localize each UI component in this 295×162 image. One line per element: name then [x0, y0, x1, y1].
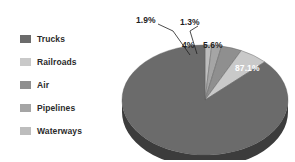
legend-label-air: Air — [37, 80, 49, 90]
legend-swatch-pipelines — [20, 104, 31, 112]
slice-label-waterways: 1.3% — [180, 17, 200, 27]
legend-item-railroads: Railroads — [20, 56, 125, 68]
legend-swatch-air — [20, 81, 31, 89]
legend-item-air: Air — [20, 79, 125, 91]
pie-graphic: 1.9% 1.3% 4% 5.6% 87.1% — [118, 14, 293, 160]
legend-label-pipelines: Pipelines — [37, 103, 75, 113]
legend-swatch-trucks — [20, 35, 31, 43]
pie-svg — [118, 14, 293, 160]
slice-label-pipelines: 1.9% — [136, 15, 156, 25]
legend-item-waterways: Waterways — [20, 125, 125, 137]
slice-label-railroads: 5.6% — [203, 40, 223, 50]
legend-label-trucks: Trucks — [37, 34, 65, 44]
legend-item-pipelines: Pipelines — [20, 102, 125, 114]
legend-swatch-railroads — [20, 58, 31, 66]
chart-legend: Trucks Railroads Air Pipelines Waterways — [20, 33, 125, 148]
legend-item-trucks: Trucks — [20, 33, 125, 45]
slice-label-air: 4% — [182, 40, 195, 50]
slice-label-trucks: 87.1% — [235, 63, 260, 73]
legend-label-railroads: Railroads — [37, 57, 77, 67]
legend-label-waterways: Waterways — [37, 126, 82, 136]
legend-swatch-waterways — [20, 127, 31, 135]
pie-chart-figure: Trucks Railroads Air Pipelines Waterways — [0, 0, 295, 162]
pie-slices — [122, 45, 288, 155]
